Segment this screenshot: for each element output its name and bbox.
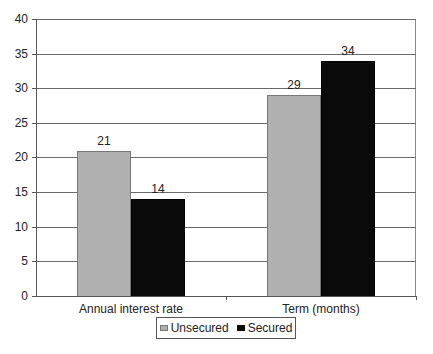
y-tick-label: 25 (0, 117, 28, 129)
value-label: 34 (321, 45, 375, 57)
legend-item-unsecured: Unsecured (160, 321, 229, 335)
gridline-40 (36, 19, 416, 20)
legend-item-secured: Secured (237, 321, 293, 335)
x-axis (32, 296, 417, 297)
bar-annual-unsecured (77, 151, 131, 297)
value-label: 29 (267, 79, 321, 91)
x-category-label: Term (months) (226, 302, 416, 316)
legend-label: Secured (248, 321, 293, 335)
x-category-label: Annual interest rate (36, 302, 226, 316)
y-tick-label: 40 (0, 13, 28, 25)
bar-term-unsecured (267, 95, 321, 297)
y-tick-label: 10 (0, 221, 28, 233)
y-tick-label: 35 (0, 48, 28, 60)
bar-annual-secured (131, 199, 185, 297)
y-tick-label: 0 (0, 290, 28, 302)
y-tick-label: 15 (0, 186, 28, 198)
bar-term-secured (321, 61, 375, 297)
secured-swatch-icon (237, 325, 245, 331)
xtick (226, 296, 227, 300)
legend: Unsecured Secured (156, 317, 296, 339)
value-label: 21 (77, 135, 131, 147)
y-tick-label: 5 (0, 255, 28, 267)
y-tick-label: 30 (0, 82, 28, 94)
unsecured-swatch-icon (160, 325, 168, 331)
y-tick-label: 20 (0, 151, 28, 163)
legend-label: Unsecured (171, 321, 229, 335)
value-label: 14 (131, 183, 185, 195)
y-axis (36, 19, 37, 297)
xtick (416, 296, 417, 300)
